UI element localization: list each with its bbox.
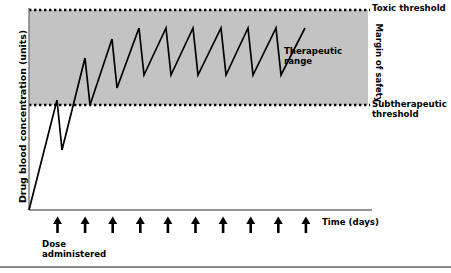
dose-arrow [53, 217, 62, 234]
bottom-divider [0, 266, 451, 268]
dose-arrow [191, 217, 200, 234]
dose-arrow [81, 217, 90, 234]
margin-of-safety-label: Margin of safety [373, 10, 383, 116]
dose-arrow [246, 217, 255, 234]
dose-arrow [274, 217, 283, 234]
subtherapeutic-threshold-label: Subtherapeutic threshold [372, 100, 447, 120]
drug-concentration-figure: Drug blood concentration (units) Toxic t… [0, 0, 451, 273]
therapeutic-range-label: Therapeutic range [284, 47, 342, 67]
toxic-threshold-label: Toxic threshold [372, 4, 446, 14]
dose-arrow-group [53, 217, 310, 234]
dose-arrow [136, 217, 145, 234]
dose-arrow [301, 217, 310, 234]
x-axis-title: Time (days) [322, 218, 379, 228]
dose-arrow [163, 217, 172, 234]
dose-administered-label: Dose administered [42, 240, 106, 260]
dose-arrow [219, 217, 228, 234]
y-axis-title: Drug blood concentration (units) [18, 24, 29, 208]
dose-arrow [108, 217, 117, 234]
